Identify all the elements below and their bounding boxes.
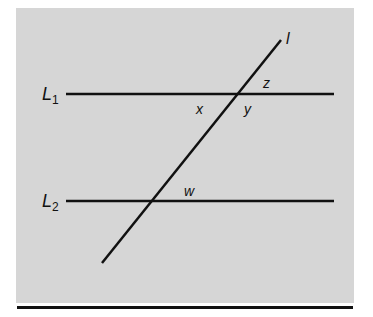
angle-z: z [262, 75, 270, 91]
label-L1: L1 [42, 84, 59, 107]
angle-w: w [184, 183, 195, 199]
angle-y: y [243, 101, 252, 117]
bottom-rule [17, 306, 353, 309]
angle-x: x [195, 101, 204, 117]
transversal-l [102, 40, 281, 263]
label-transversal: l [286, 30, 290, 47]
label-L2: L2 [42, 191, 59, 214]
parallel-lines-diagram: L1 L2 l z x y w [0, 0, 373, 317]
